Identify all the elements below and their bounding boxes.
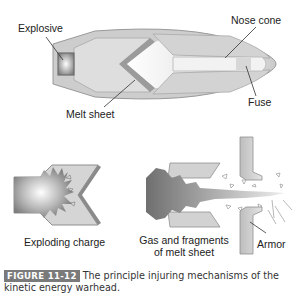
gas-fragments-illustration: [146, 163, 292, 227]
label-exploding-charge: Exploding charge: [24, 236, 105, 248]
label-gas-fragments-line1: Gas and fragments: [134, 234, 234, 246]
label-gas-fragments: Gas and fragments of melt sheet: [134, 234, 234, 258]
label-explosive: Explosive: [18, 22, 63, 34]
exploding-charge-illustration: [14, 165, 101, 225]
warhead-diagram: Explosive Nose cone Melt sheet Fuse Expl…: [0, 0, 304, 260]
label-nose-cone: Nose cone: [231, 14, 281, 26]
label-fuse: Fuse: [248, 96, 271, 108]
warhead-illustration: [0, 0, 304, 260]
label-gas-fragments-line2: of melt sheet: [134, 246, 234, 258]
figure-caption: FIGURE 11-12The principle injuring mecha…: [4, 270, 300, 294]
label-armor: Armor: [257, 238, 286, 250]
fuse-rod: [173, 57, 266, 71]
fuse-block: [236, 58, 251, 70]
label-melt-sheet: Melt sheet: [66, 108, 114, 120]
warhead-body: [53, 29, 276, 99]
figure-badge: FIGURE 11-12: [4, 270, 80, 282]
